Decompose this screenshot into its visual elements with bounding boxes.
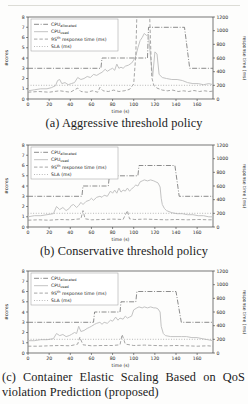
y-left-tick-label: 0 — [22, 225, 25, 230]
x-tick-label: 0 — [27, 102, 30, 107]
x-tick-label: 80 — [110, 356, 116, 361]
y-left-axis-label: #cores — [4, 177, 9, 194]
y-right-axis-label: response time (ms) — [242, 164, 247, 209]
x-tick-label: 20 — [46, 102, 52, 107]
y-right-axis-label: response time (ms) — [242, 36, 247, 81]
x-tick-label: 40 — [67, 102, 73, 107]
x-tick-label: 120 — [150, 102, 159, 107]
y-left-tick-label: 3 — [22, 66, 25, 71]
y-right-tick-label: 0 — [216, 225, 219, 230]
x-tick-label: 140 — [172, 102, 181, 107]
y-left-tick-label: 8 — [22, 269, 25, 274]
x-tick-label: 60 — [88, 102, 94, 107]
y-right-axis-label: response time (ms) — [242, 290, 247, 335]
y-left-tick-label: 4 — [22, 310, 25, 315]
scan-artifact-rule — [8, 5, 240, 6]
y-right-tick-label: 1000 — [216, 28, 228, 33]
y-left-tick-label: 2 — [22, 76, 25, 81]
x-tick-label: 140 — [172, 230, 181, 235]
y-left-tick-label: 6 — [22, 163, 25, 168]
y-left-tick-label: 3 — [22, 194, 25, 199]
y-left-tick-label: 6 — [22, 289, 25, 294]
caption-b: (b) Conservative threshold policy — [0, 244, 248, 259]
y-left-tick-label: 7 — [22, 25, 25, 30]
y-left-axis-label: #cores — [4, 49, 9, 66]
y-right-tick-label: 800 — [216, 170, 225, 175]
x-tick-label: 100 — [129, 102, 138, 107]
legend-label-sla: SLA (ms) — [51, 44, 72, 49]
y-right-tick-label: 0 — [216, 97, 219, 102]
chart-c-canvas: 0204060801001201401600123456780200400600… — [0, 265, 248, 369]
caption-c: (c) Container Elastic Scaling Based on Q… — [0, 370, 248, 400]
x-tick-label: 160 — [193, 356, 202, 361]
y-left-tick-label: 5 — [22, 173, 25, 178]
series-cpu-used — [28, 307, 213, 341]
chart-b-canvas: 0204060801001201401600123456780200400600… — [0, 139, 248, 243]
y-right-tick-label: 600 — [216, 310, 225, 315]
x-tick-label: 100 — [129, 356, 138, 361]
y-right-tick-label: 400 — [216, 69, 225, 74]
y-right-tick-label: 600 — [216, 56, 225, 61]
y-right-tick-label: 200 — [216, 83, 225, 88]
legend-label-sla: SLA (ms) — [51, 172, 72, 177]
y-left-tick-label: 8 — [22, 15, 25, 20]
y-right-tick-label: 200 — [216, 211, 225, 216]
y-left-tick-label: 2 — [22, 330, 25, 335]
y-right-tick-label: 1000 — [216, 156, 228, 161]
y-right-tick-label: 1000 — [216, 282, 228, 287]
x-tick-label: 40 — [67, 230, 73, 235]
x-tick-label: 80 — [110, 230, 116, 235]
x-tick-label: 20 — [46, 230, 52, 235]
x-tick-label: 160 — [193, 230, 202, 235]
x-axis-label: time (s) — [112, 237, 130, 242]
x-tick-label: 40 — [67, 356, 73, 361]
series-resp — [28, 211, 213, 221]
y-left-tick-label: 4 — [22, 56, 25, 61]
y-right-tick-label: 800 — [216, 296, 225, 301]
x-tick-label: 20 — [46, 356, 52, 361]
y-right-tick-label: 600 — [216, 184, 225, 189]
y-left-tick-label: 1 — [22, 86, 25, 91]
subplot-a: 0204060801001201401600123456780200400600… — [0, 11, 248, 131]
y-left-tick-label: 7 — [22, 279, 25, 284]
y-right-tick-label: 1200 — [216, 15, 228, 20]
x-tick-label: 0 — [27, 356, 30, 361]
x-tick-label: 0 — [27, 230, 30, 235]
y-left-tick-label: 6 — [22, 35, 25, 40]
y-left-tick-label: 2 — [22, 204, 25, 209]
x-axis-label: time (s) — [112, 109, 130, 114]
y-right-tick-label: 800 — [216, 42, 225, 47]
figure-page: { "series_styles": { "cpu-allocated": {"… — [0, 0, 248, 404]
y-left-axis-label: #cores — [4, 303, 9, 320]
x-tick-label: 60 — [88, 356, 94, 361]
y-left-tick-label: 1 — [22, 340, 25, 345]
x-tick-label: 80 — [110, 102, 116, 107]
x-tick-label: 160 — [193, 102, 202, 107]
y-left-tick-label: 3 — [22, 320, 25, 325]
y-left-tick-label: 4 — [22, 184, 25, 189]
x-axis-label: time (s) — [112, 363, 130, 368]
y-right-tick-label: 1200 — [216, 269, 228, 274]
y-left-tick-label: 8 — [22, 143, 25, 148]
y-right-tick-label: 0 — [216, 351, 219, 356]
y-right-tick-label: 200 — [216, 337, 225, 342]
y-left-tick-label: 7 — [22, 153, 25, 158]
y-left-tick-label: 5 — [22, 299, 25, 304]
subplot-b: 0204060801001201401600123456780200400600… — [0, 139, 248, 259]
y-left-tick-label: 0 — [22, 351, 25, 356]
x-tick-label: 120 — [150, 356, 159, 361]
y-left-tick-label: 5 — [22, 45, 25, 50]
y-right-tick-label: 1200 — [216, 143, 228, 148]
caption-a: (a) Aggressive threshold policy — [0, 116, 248, 131]
x-tick-label: 100 — [129, 230, 138, 235]
chart-a-canvas: 0204060801001201401600123456780200400600… — [0, 11, 248, 115]
y-right-tick-label: 400 — [216, 197, 225, 202]
x-tick-label: 120 — [150, 230, 159, 235]
subplot-c: 0204060801001201401600123456780200400600… — [0, 265, 248, 400]
x-tick-label: 60 — [88, 230, 94, 235]
y-left-tick-label: 0 — [22, 97, 25, 102]
legend-label-sla: SLA (ms) — [51, 298, 72, 303]
y-left-tick-label: 1 — [22, 214, 25, 219]
y-right-tick-label: 400 — [216, 323, 225, 328]
x-tick-label: 140 — [172, 356, 181, 361]
